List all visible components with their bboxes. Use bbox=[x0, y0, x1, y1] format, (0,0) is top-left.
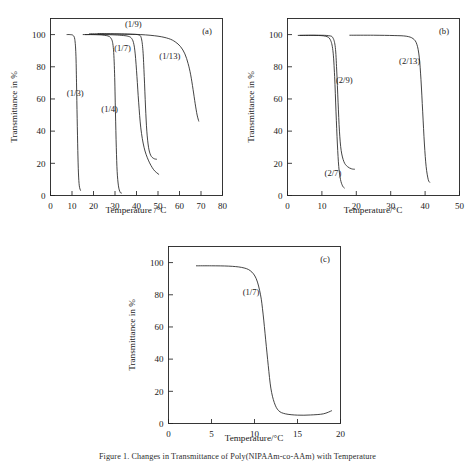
panel-a-frame bbox=[51, 19, 223, 196]
panel-a-yticks bbox=[51, 35, 56, 196]
c-ytick-100: 100 bbox=[150, 258, 164, 268]
a-curve-label-2: (1/7) bbox=[114, 43, 131, 53]
panel-a-axes bbox=[51, 19, 223, 196]
b-xtick-40: 40 bbox=[421, 201, 431, 211]
b-ytick-20: 20 bbox=[274, 159, 284, 169]
b-xtick-0: 0 bbox=[285, 201, 290, 211]
panel-a-xticks bbox=[51, 191, 223, 196]
a-ytick-100: 100 bbox=[32, 30, 46, 40]
a-ytick-20: 20 bbox=[37, 159, 47, 169]
a-curve-label-4: (1/13) bbox=[159, 51, 180, 61]
c-xtick-15: 15 bbox=[293, 429, 303, 439]
a-curve-label-1: (1/4) bbox=[101, 104, 118, 114]
panel-c-curve-labels: (1/7) bbox=[243, 287, 260, 297]
c-curve-0 bbox=[196, 266, 332, 415]
b-curve-label-1: (2/9) bbox=[336, 75, 353, 85]
panel-c-yticklabels: 020406080100 bbox=[150, 258, 164, 429]
panel-a-plot: 01020304050607080 020406080100 (1/3)(1/4… bbox=[0, 6, 238, 218]
a-xtick-80: 80 bbox=[218, 201, 228, 211]
a-xtick-20: 20 bbox=[89, 201, 99, 211]
a-curve-label-0: (1/3) bbox=[67, 88, 84, 98]
panel-b: 01020304050 020406080100 (2/7)(2/9)(2/13… bbox=[237, 6, 475, 218]
b-curve-label-0: (2/7) bbox=[325, 168, 342, 178]
b-ytick-60: 60 bbox=[274, 94, 284, 104]
panel-b-frame bbox=[288, 19, 460, 196]
c-ytick-20: 20 bbox=[155, 387, 165, 397]
c-xtick-0: 0 bbox=[166, 429, 171, 439]
panel-b-xticks bbox=[288, 191, 460, 196]
b-ytick-100: 100 bbox=[269, 30, 283, 40]
panel-a-curve-labels: (1/3)(1/4)(1/7)(1/9)(1/13) bbox=[67, 19, 181, 114]
a-ytick-80: 80 bbox=[37, 62, 47, 72]
panel-a-x-axis-title: Temperature /°C bbox=[106, 205, 167, 215]
a-xtick-10: 10 bbox=[68, 201, 78, 211]
b-xtick-50: 50 bbox=[455, 201, 465, 211]
a-curve-0 bbox=[67, 35, 81, 191]
panel-c-y-axis-title: Transmittance in % bbox=[127, 299, 137, 371]
a-curve-2 bbox=[85, 35, 159, 175]
panel-b-plot: 01020304050 020406080100 (2/7)(2/9)(2/13… bbox=[237, 6, 475, 218]
a-ytick-60: 60 bbox=[37, 94, 47, 104]
c-ytick-40: 40 bbox=[155, 354, 165, 364]
c-xtick-5: 5 bbox=[209, 429, 214, 439]
panel-c-curves bbox=[196, 266, 332, 415]
panel-b-label: (b) bbox=[439, 26, 449, 36]
panel-c-frame bbox=[169, 247, 341, 424]
panel-b-yticklabels: 020406080100 bbox=[269, 30, 283, 201]
b-ytick-0: 0 bbox=[278, 191, 283, 201]
a-xtick-60: 60 bbox=[175, 201, 185, 211]
panel-c-label: (c) bbox=[320, 254, 330, 264]
panel-a: 01020304050607080 020406080100 (1/3)(1/4… bbox=[0, 6, 238, 218]
figure-caption: Figure 1. Changes in Transmittance of Po… bbox=[0, 452, 475, 461]
panel-c-x-axis-title: Temperature/°C bbox=[225, 433, 284, 443]
panel-a-yticklabels: 020406080100 bbox=[32, 30, 46, 201]
panel-c-plot: 05101520 020406080100 (1/7) Temperature/… bbox=[118, 234, 356, 446]
a-curve-label-3: (1/9) bbox=[125, 19, 142, 29]
c-curve-label-0: (1/7) bbox=[243, 287, 260, 297]
c-ytick-0: 0 bbox=[159, 419, 164, 429]
panel-b-y-axis-title: Transmittance in % bbox=[246, 71, 256, 143]
c-ytick-60: 60 bbox=[155, 322, 165, 332]
panel-c-yticks bbox=[169, 263, 174, 424]
panel-c: 05101520 020406080100 (1/7) Temperature/… bbox=[118, 234, 356, 446]
panel-b-yticks bbox=[288, 35, 293, 196]
b-curve-label-2: (2/13) bbox=[399, 56, 420, 66]
b-xtick-10: 10 bbox=[317, 201, 327, 211]
panel-c-xticks bbox=[169, 419, 341, 424]
panel-a-y-axis-title: Transmittance in % bbox=[9, 71, 19, 143]
panel-b-x-axis-title: Temperature/°C bbox=[344, 205, 403, 215]
c-ytick-80: 80 bbox=[155, 290, 165, 300]
a-xtick-0: 0 bbox=[48, 201, 53, 211]
b-curve-0 bbox=[298, 35, 345, 188]
a-xtick-70: 70 bbox=[197, 201, 207, 211]
panel-a-label: (a) bbox=[202, 26, 212, 36]
c-xtick-20: 20 bbox=[336, 429, 346, 439]
figure-container: 01020304050607080 020406080100 (1/3)(1/4… bbox=[0, 0, 475, 474]
b-ytick-40: 40 bbox=[274, 126, 284, 136]
a-ytick-40: 40 bbox=[37, 126, 47, 136]
b-ytick-80: 80 bbox=[274, 62, 284, 72]
a-ytick-0: 0 bbox=[41, 191, 46, 201]
b-curve-1 bbox=[300, 35, 355, 169]
